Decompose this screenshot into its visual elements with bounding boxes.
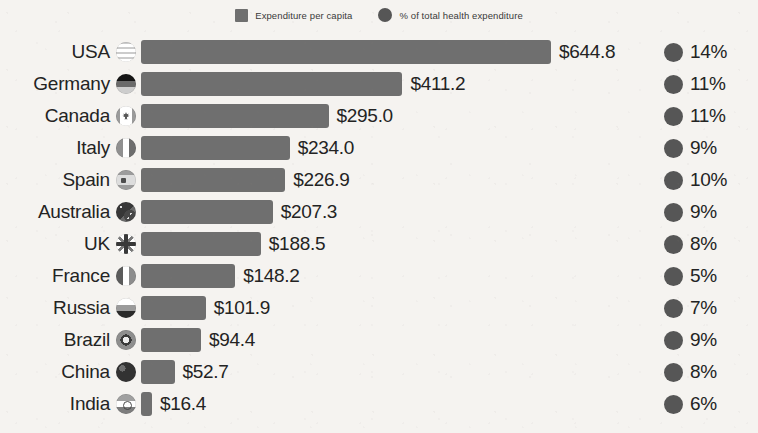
flag-spain-icon bbox=[116, 170, 136, 190]
bar-area: $644.814% bbox=[136, 36, 758, 68]
percent-label: 11% bbox=[690, 105, 726, 127]
bar-area: $295.011% bbox=[136, 100, 758, 132]
percent-label: 9% bbox=[690, 201, 717, 223]
country-label: Australia bbox=[0, 201, 116, 223]
chart-row: Russia$101.97% bbox=[0, 292, 758, 324]
percent-label: 5% bbox=[690, 265, 717, 287]
percent-cell: 10% bbox=[664, 164, 750, 196]
bar-area: $148.25% bbox=[136, 260, 758, 292]
legend-label-expenditure: Expenditure per capita bbox=[255, 10, 352, 21]
expenditure-bar bbox=[141, 296, 206, 320]
chart-legend: Expenditure per capita % of total health… bbox=[0, 0, 758, 30]
flag-russia-icon bbox=[116, 298, 136, 318]
percent-dot-icon bbox=[664, 107, 683, 126]
country-label: China bbox=[0, 361, 116, 383]
percent-label: 14% bbox=[690, 41, 727, 63]
chart-row: France$148.25% bbox=[0, 260, 758, 292]
country-label: Germany bbox=[0, 73, 116, 95]
expenditure-bar bbox=[141, 104, 329, 128]
bar-value-label: $234.0 bbox=[298, 137, 354, 159]
expenditure-bar bbox=[141, 264, 235, 288]
flag-uk-icon bbox=[116, 234, 136, 254]
chart-row: Italy$234.09% bbox=[0, 132, 758, 164]
expenditure-bar bbox=[141, 232, 261, 256]
legend-item-percent: % of total health expenditure bbox=[378, 8, 522, 22]
flag-uk-cross bbox=[116, 234, 136, 254]
country-label: Canada bbox=[0, 105, 116, 127]
percent-cell: 9% bbox=[664, 324, 750, 356]
bar-value-label: $207.3 bbox=[281, 201, 337, 223]
flag-australia-icon bbox=[116, 202, 136, 222]
percent-cell: 8% bbox=[664, 228, 750, 260]
percent-cell: 5% bbox=[664, 260, 750, 292]
percent-cell: 7% bbox=[664, 292, 750, 324]
percent-cell: 6% bbox=[664, 388, 750, 420]
chart-row: China$52.78% bbox=[0, 356, 758, 388]
percent-dot-icon bbox=[664, 75, 683, 94]
country-label: Italy bbox=[0, 137, 116, 159]
expenditure-bar bbox=[141, 136, 290, 160]
flag-italy-icon bbox=[116, 138, 136, 158]
chart-row: Brazil$94.49% bbox=[0, 324, 758, 356]
chart-row: Germany$411.211% bbox=[0, 68, 758, 100]
bar-value-label: $94.4 bbox=[209, 329, 255, 351]
country-label: Spain bbox=[0, 169, 116, 191]
flag-canada-icon bbox=[116, 106, 136, 126]
percent-label: 6% bbox=[690, 393, 717, 415]
expenditure-bar bbox=[141, 360, 175, 384]
percent-label: 8% bbox=[690, 361, 717, 383]
bar-value-label: $295.0 bbox=[337, 105, 393, 127]
bar-value-label: $52.7 bbox=[183, 361, 229, 383]
percent-dot-icon bbox=[664, 139, 683, 158]
chart-row: UK$188.58% bbox=[0, 228, 758, 260]
percent-dot-icon bbox=[664, 203, 683, 222]
square-swatch-icon bbox=[235, 9, 248, 22]
percent-label: 11% bbox=[690, 73, 726, 95]
flag-china-icon bbox=[116, 362, 136, 382]
country-label: India bbox=[0, 393, 116, 415]
percent-cell: 11% bbox=[664, 68, 750, 100]
chart-row: India$16.46% bbox=[0, 388, 758, 420]
flag-france-icon bbox=[116, 266, 136, 286]
bar-value-label: $148.2 bbox=[243, 265, 299, 287]
bar-area: $226.910% bbox=[136, 164, 758, 196]
chart-row: Canada$295.011% bbox=[0, 100, 758, 132]
flag-spain-emblem bbox=[121, 178, 126, 183]
bar-area: $188.58% bbox=[136, 228, 758, 260]
bar-area: $16.46% bbox=[136, 388, 758, 420]
expenditure-bar bbox=[141, 392, 152, 416]
percent-cell: 14% bbox=[664, 36, 750, 68]
percent-dot-icon bbox=[664, 171, 683, 190]
chart-row: Australia$207.39% bbox=[0, 196, 758, 228]
chart-row: USA$644.814% bbox=[0, 36, 758, 68]
percent-label: 9% bbox=[690, 137, 717, 159]
bar-value-label: $101.9 bbox=[214, 297, 270, 319]
flag-germany-icon bbox=[116, 74, 136, 94]
percent-dot-icon bbox=[664, 43, 683, 62]
bar-value-label: $226.9 bbox=[293, 169, 349, 191]
percent-dot-icon bbox=[664, 299, 683, 318]
percent-cell: 8% bbox=[664, 356, 750, 388]
bar-value-label: $644.8 bbox=[559, 41, 615, 63]
expenditure-bar bbox=[141, 40, 551, 64]
country-label: Russia bbox=[0, 297, 116, 319]
expenditure-bar bbox=[141, 168, 285, 192]
percent-dot-icon bbox=[664, 235, 683, 254]
circle-swatch-icon bbox=[378, 8, 392, 22]
bar-value-label: $16.4 bbox=[160, 393, 206, 415]
percent-dot-icon bbox=[664, 363, 683, 382]
legend-label-percent: % of total health expenditure bbox=[399, 10, 522, 21]
percent-label: 9% bbox=[690, 329, 717, 351]
country-label: Brazil bbox=[0, 329, 116, 351]
flag-india-chakra bbox=[123, 401, 132, 410]
percent-label: 7% bbox=[690, 297, 717, 319]
bar-area: $207.39% bbox=[136, 196, 758, 228]
percent-cell: 11% bbox=[664, 100, 750, 132]
country-label: USA bbox=[0, 41, 116, 63]
expenditure-bar bbox=[141, 328, 201, 352]
bar-area: $101.97% bbox=[136, 292, 758, 324]
horizontal-bar-chart: USA$644.814%Germany$411.211%Canada$295.0… bbox=[0, 36, 758, 420]
expenditure-bar bbox=[141, 72, 402, 96]
percent-cell: 9% bbox=[664, 132, 750, 164]
bar-value-label: $411.2 bbox=[410, 73, 465, 95]
